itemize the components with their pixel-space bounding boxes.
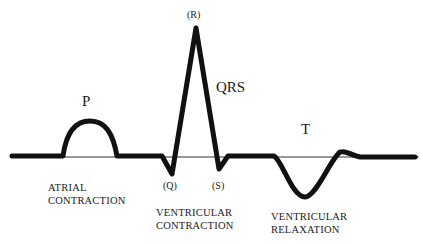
qrs-complex-label: QRS	[216, 79, 245, 96]
p-wave-label: P	[82, 93, 90, 110]
ventricular-contraction-label: VENTRICULAR CONTRACTION	[156, 206, 233, 232]
ventricular-relaxation-line1: VENTRICULAR	[271, 210, 347, 223]
ventricular-relaxation-line2: RELAXATION	[271, 223, 347, 236]
t-wave-label: T	[301, 121, 310, 138]
ventricular-relaxation-label: VENTRICULAR RELAXATION	[271, 210, 347, 236]
ecg-trace	[12, 28, 415, 197]
ventricular-contraction-line1: VENTRICULAR	[156, 206, 233, 219]
ventricular-contraction-line2: CONTRACTION	[156, 219, 233, 232]
r-point-label: (R)	[187, 9, 200, 20]
atrial-contraction-label: ATRIAL CONTRACTION	[48, 181, 125, 207]
atrial-line2: CONTRACTION	[48, 194, 125, 207]
atrial-line1: ATRIAL	[48, 181, 125, 194]
s-point-label: (S)	[212, 180, 224, 191]
q-point-label: (Q)	[163, 180, 177, 191]
